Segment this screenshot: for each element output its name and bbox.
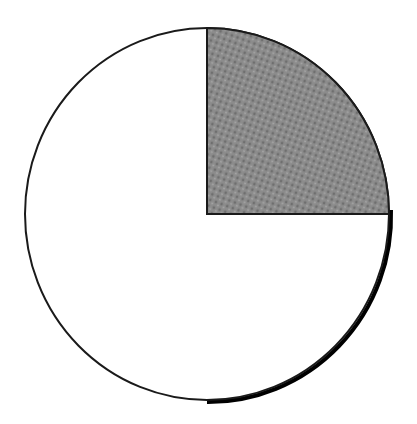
pie-slice-shaded [207, 28, 389, 214]
pie-chart [0, 0, 417, 424]
